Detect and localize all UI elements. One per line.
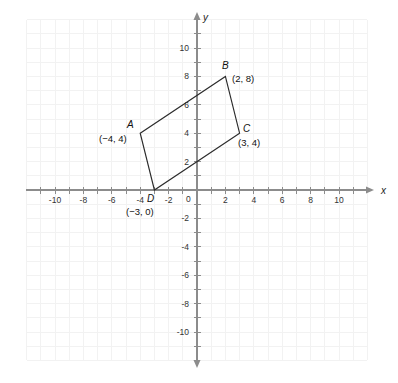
y-axis-tick-label: 8: [184, 71, 189, 81]
vertex-coord-c: (3, 4): [238, 137, 260, 148]
x-axis-tick-label: -6: [108, 195, 116, 205]
x-axis-tick-label: -8: [80, 195, 88, 205]
y-axis-tick-label: 10: [180, 43, 190, 53]
x-axis-tick-label: -4: [136, 195, 144, 205]
x-axis-tick-label: -10: [49, 195, 62, 205]
vertex-label-a: A: [126, 119, 134, 130]
x-axis-tick-label: 10: [334, 195, 344, 205]
x-axis-tick-label: -2: [165, 195, 173, 205]
y-axis-tick-label: -8: [181, 299, 189, 309]
vertex-coord-d: (−3, 0): [126, 206, 154, 217]
y-axis-tick-label: 4: [184, 128, 189, 138]
y-axis-arrow-up-icon: [194, 12, 201, 20]
x-axis-tick-label: 8: [308, 195, 313, 205]
origin-label: 0: [186, 194, 191, 204]
y-axis-tick-label: -4: [181, 242, 189, 252]
vertex-coord-a: (−4, 4): [99, 133, 127, 144]
y-axis-arrow-down-icon: [194, 360, 201, 368]
coordinate-plane-svg: -10-8-6-4-2246810108642-2-4-6-8-10 x y 0…: [0, 0, 398, 383]
y-axis-tick-label: -10: [177, 327, 190, 337]
y-axis-tick-label: -2: [181, 213, 189, 223]
y-axis-tick-label: 2: [184, 157, 189, 167]
axes: [26, 12, 374, 368]
vertex-coord-b: (2, 8): [232, 73, 254, 84]
x-axis-tick-label: 6: [280, 195, 285, 205]
vertex-label-b: B: [222, 60, 229, 71]
y-axis-tick-label: -6: [181, 270, 189, 280]
vertex-label-c: C: [243, 123, 251, 134]
x-axis-tick-label: 4: [251, 195, 256, 205]
y-axis-label: y: [202, 12, 209, 23]
coordinate-plane-figure: -10-8-6-4-2246810108642-2-4-6-8-10 x y 0…: [0, 0, 398, 383]
x-axis-arrow-icon: [366, 187, 374, 194]
x-axis-tick-label: 2: [223, 195, 228, 205]
vertex-label-d: D: [147, 193, 154, 204]
x-axis-label: x: [380, 185, 387, 196]
